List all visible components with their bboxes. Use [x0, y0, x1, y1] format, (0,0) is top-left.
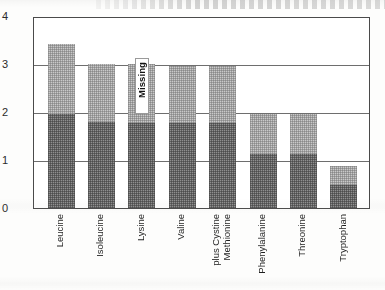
bar-annotation-label: Missing [137, 62, 147, 98]
x-axis-label-isoleucine: Isoleucine [87, 214, 114, 257]
gridline-3 [34, 65, 369, 66]
x-axis-label-line: Valine [176, 214, 187, 240]
bar-segment-light [330, 166, 357, 185]
bar-valine [169, 66, 196, 208]
bar-segment-light [290, 114, 317, 153]
x-axis-label-lysine: Lysine [127, 214, 154, 241]
x-axis-label-phenylalanine: Phenylalanine [249, 214, 276, 274]
x-axis-label-line: Threonine [297, 214, 308, 257]
bar-lysine: Missing [128, 64, 155, 208]
y-tick-label-3: 3 [0, 59, 8, 70]
bar-segment-dark [88, 122, 115, 208]
plot-area: Missing [33, 17, 370, 209]
bar-threonine [290, 114, 317, 208]
gridline-2 [34, 113, 369, 114]
bar-segment-dark [250, 154, 277, 208]
x-axis-label-line: Lysine [136, 214, 147, 241]
gridline-1 [34, 161, 369, 162]
bar-segment-dark [48, 114, 75, 208]
bar-segment-light [48, 44, 75, 115]
x-axis-label-tryptophan: Tryptophan [329, 214, 356, 262]
bar-segment-light [88, 64, 115, 122]
bar-segment-light [250, 114, 277, 154]
bar-segment-dark [290, 154, 317, 208]
x-axis-label-line: Phenylalanine [257, 214, 268, 274]
x-axis-label-threonine: Threonine [289, 214, 316, 257]
x-axis-label-line: Leucine [55, 214, 66, 247]
bar-annotation-missing: Missing [135, 58, 149, 114]
bar-phenylalanine [250, 114, 277, 208]
bar-isoleucine [88, 64, 115, 208]
x-axis-label-leucine: Leucine [47, 214, 74, 247]
bar-segment-dark [209, 123, 236, 208]
bar-segment-dark [169, 123, 196, 208]
bar-chart: 4 3 2 1 0 Missing LeucineIsoleucineLysin… [0, 0, 385, 290]
x-axis-label-methionine-plus-cystine: Methionineplus Cystine [208, 214, 235, 266]
bar-segment-light [169, 66, 196, 123]
y-tick-label-2: 2 [0, 107, 8, 118]
y-tick-label-1: 1 [0, 155, 8, 166]
x-axis-label-line: Isoleucine [95, 214, 106, 257]
bar-segment-light [209, 66, 236, 123]
x-axis-label-line: Methionine [222, 214, 233, 260]
bar-segment-dark [330, 185, 357, 208]
y-tick-label-0: 0 [0, 203, 8, 214]
bar-methionine-plus-cystine [209, 66, 236, 208]
bar-tryptophan [330, 166, 357, 208]
x-axis-label-line: Tryptophan [338, 214, 349, 262]
x-axis-label-line: plus Cystine [211, 214, 222, 266]
bar-leucine [48, 44, 75, 208]
x-axis-label-valine: Valine [168, 214, 195, 240]
bar-segment-dark [128, 123, 155, 208]
y-tick-label-4: 4 [0, 11, 8, 22]
